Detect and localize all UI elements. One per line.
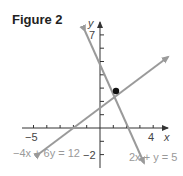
x-max-label: 4 [148,131,154,143]
y-axis-label: y [87,17,95,29]
equation-2-label: 2x + y = 5 [129,151,177,163]
x-axis-label: x [163,131,170,143]
line-eq2 [85,31,144,163]
intersection-point [113,88,119,94]
y-min-label: −2 [83,149,96,161]
coordinate-plane: y 7 −2 −5 4 x −4x + 6y = 12 2x + y = 5 [0,0,183,176]
x-min-label: −5 [25,131,38,143]
equation-1-label: −4x + 6y = 12 [13,147,80,159]
y-ticks [100,35,104,155]
y-max-label: 7 [89,29,95,41]
